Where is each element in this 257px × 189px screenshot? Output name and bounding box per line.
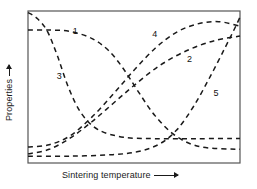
curve-1 bbox=[28, 30, 240, 149]
curve-5 bbox=[28, 17, 240, 156]
y-axis-label-text: Properties bbox=[4, 79, 14, 121]
x-axis-label-text: Sintering temperature bbox=[62, 170, 151, 180]
x-axis-label: Sintering temperature bbox=[62, 170, 178, 180]
curve-label-5: 5 bbox=[214, 89, 219, 98]
curve-label-2: 2 bbox=[187, 55, 192, 64]
curve-label-3: 3 bbox=[57, 72, 62, 81]
curve-group bbox=[28, 13, 240, 157]
curve-label-1: 1 bbox=[73, 27, 78, 36]
x-axis-arrow-icon bbox=[154, 175, 178, 176]
sintering-properties-figure: Sintering temperature Properties 13425 bbox=[0, 0, 257, 189]
plot-frame bbox=[28, 11, 240, 163]
y-axis-label: Properties bbox=[4, 65, 14, 121]
curve-2 bbox=[28, 36, 240, 154]
y-axis-arrow-icon bbox=[9, 65, 10, 76]
curve-label-4: 4 bbox=[152, 30, 157, 39]
